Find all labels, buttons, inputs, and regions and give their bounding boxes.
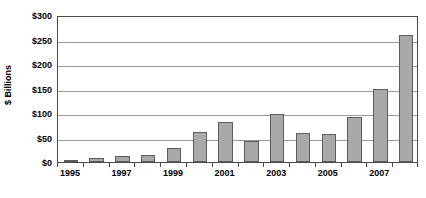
x-axis-tick-label: 2005 bbox=[318, 168, 338, 178]
x-axis-tick bbox=[417, 163, 418, 167]
bar bbox=[399, 35, 413, 162]
x-axis-tick bbox=[263, 163, 264, 167]
y-axis-tick-labels: $0$50$100$150$200$250$300 bbox=[14, 16, 54, 163]
bar bbox=[347, 117, 361, 162]
x-axis-tick-label: 1995 bbox=[60, 168, 80, 178]
bar bbox=[322, 134, 336, 162]
x-axis-tick-label: 1997 bbox=[111, 168, 131, 178]
x-axis-tick-label: 2007 bbox=[369, 168, 389, 178]
x-axis-tick bbox=[160, 163, 161, 167]
x-axis-tick bbox=[186, 163, 187, 167]
bar bbox=[141, 155, 155, 162]
bar bbox=[218, 122, 232, 162]
y-axis-tick-label: $250 bbox=[32, 36, 52, 46]
bar bbox=[244, 141, 258, 162]
x-axis-tick bbox=[315, 163, 316, 167]
bars-layer bbox=[58, 17, 417, 162]
x-axis-tick bbox=[212, 163, 213, 167]
bar-chart: $ Billions $0$50$100$150$200$250$300 199… bbox=[0, 0, 426, 198]
bar bbox=[89, 158, 103, 162]
x-axis-tick bbox=[392, 163, 393, 167]
y-axis-tick-label: $300 bbox=[32, 11, 52, 21]
y-axis-tick-label: $150 bbox=[32, 85, 52, 95]
bar bbox=[270, 114, 284, 162]
y-axis-tick-label: $0 bbox=[42, 158, 52, 168]
bar bbox=[193, 132, 207, 162]
y-axis-tick-label: $200 bbox=[32, 60, 52, 70]
x-axis-tick bbox=[57, 163, 58, 167]
x-axis-tick bbox=[238, 163, 239, 167]
x-axis-tick-label: 2001 bbox=[215, 168, 235, 178]
x-axis-tick-label: 1999 bbox=[163, 168, 183, 178]
x-axis-tick bbox=[134, 163, 135, 167]
y-axis-title-label: $ Billions bbox=[3, 65, 13, 105]
bar bbox=[167, 148, 181, 162]
x-axis-tick bbox=[109, 163, 110, 167]
x-axis-tick bbox=[341, 163, 342, 167]
x-axis-tick-label: 2003 bbox=[266, 168, 286, 178]
bar bbox=[64, 160, 78, 162]
y-axis-tick-label: $100 bbox=[32, 109, 52, 119]
y-axis-tick-label: $50 bbox=[37, 134, 52, 144]
x-axis-tick-labels: 1995199719992001200320052007 bbox=[57, 168, 418, 184]
x-axis-tick bbox=[83, 163, 84, 167]
bar bbox=[296, 133, 310, 162]
plot-area bbox=[57, 16, 418, 163]
x-axis-tick bbox=[289, 163, 290, 167]
x-axis-tick bbox=[366, 163, 367, 167]
bar bbox=[373, 89, 387, 162]
bar bbox=[115, 156, 129, 162]
